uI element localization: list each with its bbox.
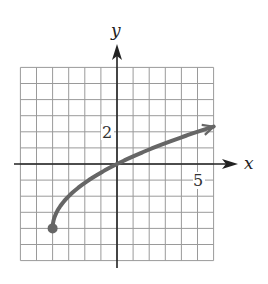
- function-graph: x y 2 5: [0, 0, 268, 284]
- x-axis-label: x: [244, 153, 254, 173]
- y-axis: [112, 44, 122, 268]
- y-axis-label: y: [110, 20, 121, 40]
- start-point: [48, 223, 58, 233]
- x-tick-label: 5: [193, 171, 203, 190]
- y-tick-label: 2: [102, 123, 112, 142]
